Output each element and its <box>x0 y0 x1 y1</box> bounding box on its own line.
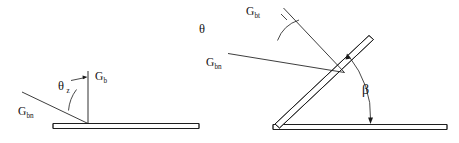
incidence-angle-tick <box>281 14 287 20</box>
figure-svg: G b G bn θ z <box>0 0 459 143</box>
right-ground-slab <box>273 125 447 130</box>
svg-text:b: b <box>104 77 108 85</box>
svg-text:G: G <box>95 70 103 82</box>
label-beta: β <box>362 82 369 97</box>
svg-text:G: G <box>18 105 26 117</box>
label-g-bn-left: G bn <box>18 105 34 120</box>
left-ground-slab-body <box>53 124 199 129</box>
svg-text:θ: θ <box>58 79 64 93</box>
label-g-bt: G bt <box>246 5 260 20</box>
figure-canvas: G b G bn θ z <box>0 0 459 143</box>
beam-normal-ray-right <box>228 54 345 73</box>
tilted-panel-body <box>275 36 374 129</box>
tilted-panel-lower-edge <box>280 40 374 129</box>
svg-text:θ: θ <box>199 22 205 36</box>
svg-text:z: z <box>67 87 70 95</box>
right-diagram-group: G bt G bn θ β <box>199 5 447 130</box>
right-ground-slab-body <box>273 125 447 130</box>
svg-text:bt: bt <box>255 12 261 20</box>
label-g-bn-right: G bn <box>206 56 222 71</box>
svg-text:bn: bn <box>215 63 223 71</box>
normal-pointer-arrow <box>71 76 88 81</box>
beam-tilted-ray <box>284 8 345 73</box>
label-theta: θ <box>199 22 205 36</box>
left-diagram-group: G b G bn θ z <box>18 70 199 129</box>
label-theta-z: θ z <box>58 79 70 95</box>
label-g-b: G b <box>95 70 108 85</box>
svg-text:G: G <box>206 56 214 68</box>
incidence-angle-arc <box>278 20 300 41</box>
svg-text:G: G <box>246 5 254 17</box>
tilt-angle-arrowhead <box>368 118 373 124</box>
svg-text:β: β <box>362 82 369 97</box>
svg-text:bn: bn <box>27 112 35 120</box>
tilted-panel-slab <box>275 36 374 129</box>
left-ground-slab <box>53 124 199 129</box>
